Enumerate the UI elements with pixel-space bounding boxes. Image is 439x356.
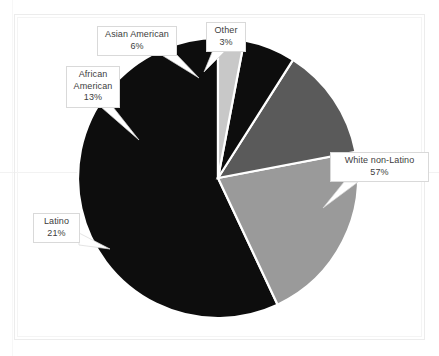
pie-chart-figure: Asian American 6% Other 3% African Ameri… <box>0 0 439 356</box>
pie-label-asian-american: Asian American 6% <box>97 26 177 56</box>
pie-label-other-name: Other <box>211 25 241 37</box>
pie-label-asian-american-value: 6% <box>102 41 172 53</box>
pie-label-latino: Latino 21% <box>33 213 80 243</box>
pie-label-white-non-latino-name: White non-Latino <box>335 155 424 167</box>
pie-label-other-value: 3% <box>211 37 241 49</box>
pie-label-asian-american-name: Asian American <box>102 29 172 41</box>
pie-label-african-american-name-2: American <box>71 81 115 93</box>
pie-label-other: Other 3% <box>206 22 246 52</box>
pie-label-african-american-value: 13% <box>71 92 115 104</box>
pie-slice-group <box>78 38 358 318</box>
pie-label-white-non-latino: White non-Latino 57% <box>330 152 429 182</box>
pie-label-african-american-name-1: African <box>71 69 115 81</box>
pie-label-latino-name: Latino <box>38 216 75 228</box>
pie-label-latino-value: 21% <box>38 228 75 240</box>
pie-label-white-non-latino-value: 57% <box>335 167 424 179</box>
pie-label-african-american: African American 13% <box>66 66 120 108</box>
